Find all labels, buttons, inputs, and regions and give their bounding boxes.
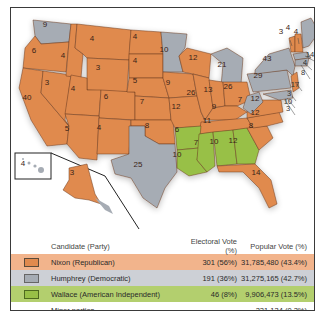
ev-label-wv: 7 xyxy=(238,95,243,104)
ev-label-ca: 40 xyxy=(23,93,32,102)
ev-label-id: 4 xyxy=(61,51,66,60)
ev-label-ri: 4 xyxy=(303,58,307,67)
republican-swatch xyxy=(24,258,39,267)
header-candidate: Candidate (Party) xyxy=(51,242,179,251)
state-mi xyxy=(211,48,243,86)
ev-label-in: 13 xyxy=(204,85,213,94)
state-nm xyxy=(97,118,131,154)
ev-label-nd: 4 xyxy=(133,32,138,41)
ev-label-sd: 4 xyxy=(133,56,138,65)
ev-label-fl: 14 xyxy=(252,168,261,177)
popular-vote: 31,275,165 (42.7%) xyxy=(237,274,307,283)
state-wa xyxy=(33,20,71,44)
ev-label-ia: 9 xyxy=(166,78,171,87)
candidate-name: Humphrey (Democratic) xyxy=(51,274,179,283)
table-header: Candidate (Party) Electoral Vote (%) Pop… xyxy=(11,238,314,254)
map-frame: 9640344346544457825109126101226211326911… xyxy=(10,7,315,311)
ev-label-ny: 43 xyxy=(263,54,272,63)
candidate-name: Minor parties xyxy=(51,306,179,312)
ev-label-or: 6 xyxy=(32,46,37,55)
state-me xyxy=(301,18,315,48)
ev-label-ok: 8 xyxy=(145,121,150,130)
electoral-vote: 46 (8%) xyxy=(179,290,237,299)
header-electoral: Electoral Vote (%) xyxy=(179,237,237,255)
ev-label-nv: 3 xyxy=(45,78,50,87)
ev-label-ct: 8 xyxy=(301,68,305,77)
ev-label-dc: 3 xyxy=(286,104,290,113)
ev-label-ks: 7 xyxy=(140,97,145,106)
table-row-minor: Minor parties 221,134 (0.3%) xyxy=(11,302,314,311)
ev-label-mt: 4 xyxy=(90,34,95,43)
ev-label-me: 4 xyxy=(294,27,299,36)
results-table: Candidate (Party) Electoral Vote (%) Pop… xyxy=(11,238,314,311)
democratic-swatch xyxy=(24,274,39,283)
ev-label-nc: 12 xyxy=(251,108,260,117)
ev-label-ak: 3 xyxy=(70,168,75,177)
ev-label-wy: 3 xyxy=(96,63,101,72)
state-vt xyxy=(289,36,295,52)
table-row-nixon: Nixon (Republican) 301 (56%) 31,785,480 … xyxy=(11,254,314,270)
popular-vote: 31,785,480 (43.4%) xyxy=(237,258,307,267)
ev-label-ms: 7 xyxy=(194,138,199,147)
electoral-vote: 301 (56%) xyxy=(179,258,237,267)
state-mt xyxy=(75,24,131,60)
electoral-vote: 191 (36%) xyxy=(179,274,237,283)
ev-label-mi: 21 xyxy=(218,60,227,69)
ev-label-nj: 17 xyxy=(291,80,299,89)
ev-label-wi: 12 xyxy=(189,53,198,62)
ev-label-pa: 29 xyxy=(254,71,263,80)
header-popular: Popular Vote (%) xyxy=(237,242,307,251)
ev-label-wa: 9 xyxy=(43,20,48,29)
state-wy xyxy=(87,58,129,92)
ev-label-hi: 4 xyxy=(21,159,26,168)
ev-label-ut: 4 xyxy=(71,84,76,93)
ev-label-al: 10 xyxy=(210,137,219,146)
ev-label-vt: 3 xyxy=(279,27,284,36)
ev-label-la: 10 xyxy=(173,150,182,159)
ev-label-ne: 5 xyxy=(133,76,138,85)
ev-label-nm: 4 xyxy=(97,123,102,132)
american-independent-swatch xyxy=(24,290,39,299)
state-fl xyxy=(217,164,277,208)
ev-label-va: 12 xyxy=(251,94,260,103)
ev-label-ar: 6 xyxy=(175,125,180,134)
election-map: 9640344346544457825109126101226211326911… xyxy=(11,8,315,238)
table-row-humphrey: Humphrey (Democratic) 191 (36%) 31,275,1… xyxy=(11,270,314,286)
ev-label-ga: 12 xyxy=(229,136,238,145)
ev-label-mo: 12 xyxy=(172,102,181,111)
table-row-wallace: Wallace (American Independent) 46 (8%) 9… xyxy=(11,286,314,302)
candidate-name: Nixon (Republican) xyxy=(51,258,179,267)
popular-vote: 221,134 (0.3%) xyxy=(237,306,307,312)
ev-label-az: 5 xyxy=(65,124,70,133)
ev-label-tn: 11 xyxy=(203,116,212,125)
ev-label-nh: 4 xyxy=(286,23,291,32)
ev-label-tx: 25 xyxy=(134,160,143,169)
state-ak xyxy=(63,164,101,204)
popular-vote: 9,906,473 (13.5%) xyxy=(237,290,307,299)
ev-label-il: 26 xyxy=(187,88,196,97)
ev-label-co: 6 xyxy=(104,92,109,101)
ev-label-ky: 9 xyxy=(212,102,217,111)
candidate-name: Wallace (American Independent) xyxy=(51,290,179,299)
ev-label-sc: 8 xyxy=(249,121,254,130)
ev-label-mn: 10 xyxy=(160,45,169,54)
state-az xyxy=(65,114,99,160)
ev-label-oh: 26 xyxy=(224,82,233,91)
